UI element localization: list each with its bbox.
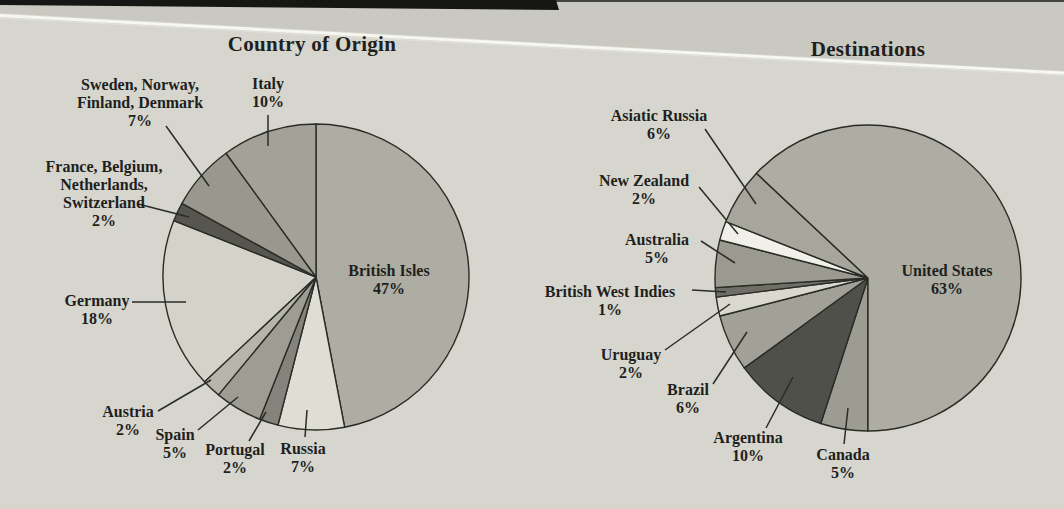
- slice-leader-line: [705, 129, 756, 204]
- slice-label-line: New Zealand: [599, 172, 689, 190]
- slice-label-line: British West Indies: [545, 283, 675, 301]
- slice-label-brazil: Brazil6%: [667, 381, 709, 417]
- slice-label-line: 2%: [599, 190, 689, 208]
- slice-label-italy: Italy10%: [252, 75, 284, 111]
- slice-label-line: Brazil: [667, 381, 709, 399]
- slice-label-germany: Germany18%: [65, 292, 130, 328]
- slice-label-line: Switzerland: [46, 194, 163, 212]
- slice-label-line: 5%: [816, 464, 869, 482]
- slice-label-line: 10%: [252, 93, 284, 111]
- slice-label-new-zealand: New Zealand2%: [599, 172, 689, 208]
- slice-label-line: Argentina: [713, 429, 782, 447]
- slice-label-line: 18%: [65, 310, 130, 328]
- slice-label-british-isles: British Isles47%: [348, 262, 429, 298]
- slice-label-line: Italy: [252, 75, 284, 93]
- slice-label-line: 6%: [667, 399, 709, 417]
- slice-label-portugal: Portugal2%: [205, 441, 265, 477]
- slice-label-line: Australia: [625, 231, 689, 249]
- slice-label-line: British Isles: [348, 262, 429, 280]
- slice-label-line: Asiatic Russia: [611, 107, 707, 125]
- slice-label-united-states: United States63%: [901, 262, 992, 298]
- slice-label-line: Sweden, Norway,: [77, 76, 203, 94]
- slice-label-line: 63%: [901, 280, 992, 298]
- origin-chart-title: Country of Origin: [228, 32, 396, 57]
- slice-label-line: 6%: [611, 125, 707, 143]
- slice-label-british-west-indies: British West Indies1%: [545, 283, 675, 319]
- slice-label-line: Spain: [155, 426, 194, 444]
- slice-label-line: 7%: [280, 458, 325, 476]
- slice-label-line: France, Belgium,: [46, 158, 163, 176]
- slice-label-line: Netherlands,: [46, 176, 163, 194]
- slice-label-line: Canada: [816, 446, 869, 464]
- slice-leader-line: [166, 126, 209, 186]
- slice-label-line: Germany: [65, 292, 130, 310]
- slice-label-line: Finland, Denmark: [77, 94, 203, 112]
- slice-label-line: 2%: [102, 421, 154, 439]
- slice-label-line: Uruguay: [601, 346, 661, 364]
- slice-label-russia: Russia7%: [280, 440, 325, 476]
- slice-label-line: 2%: [601, 364, 661, 382]
- destinations-chart-title: Destinations: [811, 37, 925, 62]
- slice-label-line: Russia: [280, 440, 325, 458]
- slice-label-france-belgium-netherlands-switzerland: France, Belgium,Netherlands,Switzerland2…: [46, 158, 163, 230]
- slice-label-australia: Australia5%: [625, 231, 689, 267]
- slice-leader-line: [198, 397, 238, 430]
- slice-label-argentina: Argentina10%: [713, 429, 782, 465]
- slice-label-line: 2%: [46, 212, 163, 230]
- slice-label-asiatic-russia: Asiatic Russia6%: [611, 107, 707, 143]
- slice-label-canada: Canada5%: [816, 446, 869, 482]
- slice-label-line: Austria: [102, 403, 154, 421]
- slice-label-line: 47%: [348, 280, 429, 298]
- slice-label-line: 5%: [625, 249, 689, 267]
- slice-label-line: 2%: [205, 459, 265, 477]
- slice-label-austria: Austria2%: [102, 403, 154, 439]
- slice-label-spain: Spain5%: [155, 426, 194, 462]
- slice-label-line: 1%: [545, 301, 675, 319]
- slice-label-line: United States: [901, 262, 992, 280]
- slice-leader-line: [158, 380, 211, 411]
- slice-label-uruguay: Uruguay2%: [601, 346, 661, 382]
- slice-label-line: 7%: [77, 112, 203, 130]
- scanned-page: Country of Origin Destinations British I…: [0, 0, 1064, 509]
- slice-label-line: 10%: [713, 447, 782, 465]
- slice-label-sweden-norway-finland-denmark: Sweden, Norway,Finland, Denmark7%: [77, 76, 203, 130]
- slice-label-line: 5%: [155, 444, 194, 462]
- slice-label-line: Portugal: [205, 441, 265, 459]
